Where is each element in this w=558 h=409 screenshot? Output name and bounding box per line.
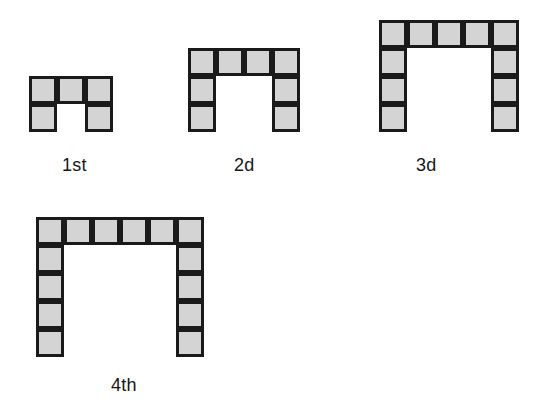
square-tile — [379, 104, 407, 132]
square-tile — [29, 76, 57, 104]
pattern-sequence-page: 1st2d3d4th — [0, 0, 558, 409]
square-tile — [36, 329, 64, 357]
figure-4-label: 4th — [111, 376, 137, 394]
square-tile — [29, 104, 57, 132]
square-tile — [176, 217, 204, 245]
square-tile — [491, 20, 519, 48]
figure-2-label: 2d — [234, 156, 254, 174]
square-tile — [491, 104, 519, 132]
square-tile — [435, 20, 463, 48]
square-tile — [244, 48, 272, 76]
square-tile — [176, 273, 204, 301]
square-tile — [176, 245, 204, 273]
square-tile — [176, 329, 204, 357]
square-tile — [188, 76, 216, 104]
square-tile — [92, 217, 120, 245]
square-tile — [491, 48, 519, 76]
square-tile — [85, 76, 113, 104]
figure-1-label: 1st — [62, 156, 87, 174]
square-tile — [148, 217, 176, 245]
square-tile — [57, 76, 85, 104]
square-tile — [85, 104, 113, 132]
square-tile — [407, 20, 435, 48]
square-tile — [36, 301, 64, 329]
square-tile — [36, 217, 64, 245]
square-tile — [491, 76, 519, 104]
square-tile — [379, 76, 407, 104]
square-tile — [272, 76, 300, 104]
square-tile — [188, 48, 216, 76]
square-tile — [36, 245, 64, 273]
square-tile — [379, 20, 407, 48]
square-tile — [216, 48, 244, 76]
figure-3-label: 3d — [416, 156, 436, 174]
square-tile — [272, 104, 300, 132]
square-tile — [463, 20, 491, 48]
square-tile — [188, 104, 216, 132]
square-tile — [120, 217, 148, 245]
square-tile — [272, 48, 300, 76]
square-tile — [176, 301, 204, 329]
square-tile — [36, 273, 64, 301]
square-tile — [379, 48, 407, 76]
square-tile — [64, 217, 92, 245]
